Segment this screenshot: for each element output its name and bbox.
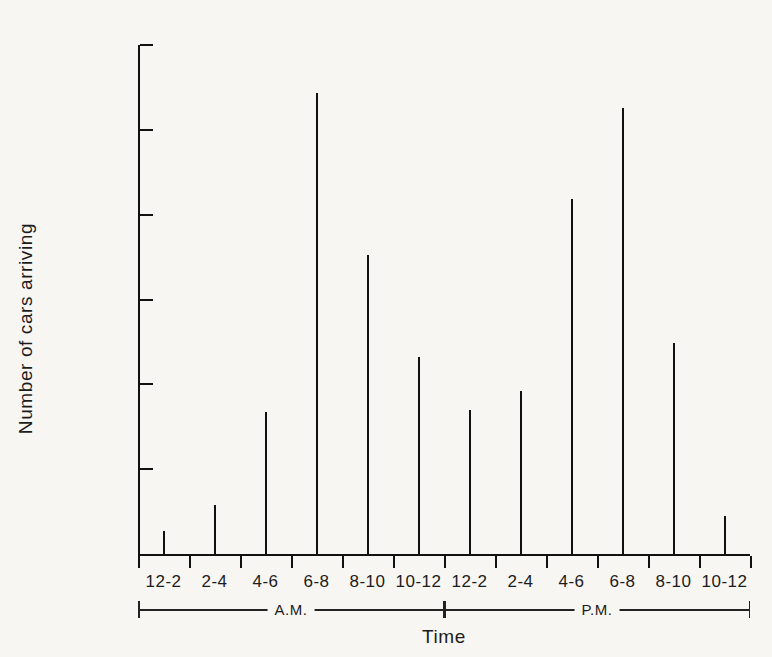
data-spike bbox=[571, 199, 573, 554]
data-spike bbox=[418, 357, 420, 554]
bracket-cap-left bbox=[138, 601, 140, 618]
x-axis-tick bbox=[189, 556, 191, 568]
data-spike bbox=[673, 343, 675, 554]
plot-area: 600050004000300020001000 12-22-44-66-88-… bbox=[138, 45, 750, 556]
data-spike bbox=[163, 531, 165, 554]
x-axis-tick bbox=[699, 556, 701, 568]
x-axis-tick-label: 6-8 bbox=[609, 572, 635, 592]
x-axis-tick-label: 12-2 bbox=[451, 572, 487, 592]
x-axis-tick-label: 12-2 bbox=[145, 572, 181, 592]
x-axis-tick-label: 10-12 bbox=[702, 572, 748, 592]
y-axis-tick bbox=[140, 129, 153, 131]
data-spike bbox=[265, 412, 267, 554]
x-axis-title: Time bbox=[138, 626, 750, 648]
x-axis-tick bbox=[240, 556, 242, 568]
x-axis-tick-label: 4-6 bbox=[558, 572, 584, 592]
x-axis-tick bbox=[138, 556, 140, 568]
bracket-cap-right bbox=[749, 601, 751, 618]
data-spike bbox=[469, 410, 471, 554]
y-axis-tick bbox=[140, 383, 153, 385]
y-axis-tick bbox=[140, 468, 153, 470]
period-bracket: A.M. bbox=[138, 600, 444, 620]
y-axis-tick bbox=[140, 44, 153, 46]
data-spike bbox=[367, 255, 369, 554]
x-axis-tick bbox=[597, 556, 599, 568]
y-axis-tick bbox=[140, 214, 153, 216]
y-axis-title: Number of cars arriving bbox=[0, 0, 52, 657]
y-axis-tick bbox=[140, 299, 153, 301]
data-spike bbox=[724, 516, 726, 554]
bracket-cap-left bbox=[444, 601, 446, 618]
x-axis-tick bbox=[648, 556, 650, 568]
x-axis-tick bbox=[393, 556, 395, 568]
x-axis-tick-label: 2-4 bbox=[507, 572, 533, 592]
data-spike bbox=[520, 391, 522, 554]
x-axis-tick-label: 8-10 bbox=[349, 572, 385, 592]
x-axis-tick bbox=[546, 556, 548, 568]
x-axis-tick bbox=[750, 556, 752, 568]
x-axis-tick bbox=[342, 556, 344, 568]
data-spike bbox=[214, 505, 216, 554]
x-axis-tick bbox=[444, 556, 446, 568]
period-label: P.M. bbox=[575, 600, 620, 620]
x-axis-tick-label: 4-6 bbox=[252, 572, 278, 592]
cars-arriving-spike-chart: Number of cars arriving 6000500040003000… bbox=[0, 0, 772, 657]
x-axis-tick-label: 10-12 bbox=[396, 572, 442, 592]
data-spike bbox=[622, 108, 624, 554]
x-axis-tick-label: 2-4 bbox=[201, 572, 227, 592]
period-bracket: P.M. bbox=[444, 600, 750, 620]
y-axis-line bbox=[138, 45, 140, 556]
data-spike bbox=[316, 93, 318, 554]
x-axis-tick bbox=[495, 556, 497, 568]
x-axis-tick bbox=[291, 556, 293, 568]
period-brackets: A.M.P.M. bbox=[138, 600, 750, 622]
x-axis-tick-label: 6-8 bbox=[303, 572, 329, 592]
x-axis-tick-label: 8-10 bbox=[655, 572, 691, 592]
period-label: A.M. bbox=[268, 600, 315, 620]
